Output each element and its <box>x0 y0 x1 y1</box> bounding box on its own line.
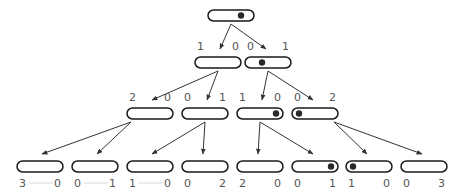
left-count-label: 0 <box>294 91 301 104</box>
right-count-label: 0 <box>54 177 61 190</box>
capsule-shape <box>237 161 283 172</box>
capsule-node <box>182 108 228 119</box>
edge-arrow <box>258 122 260 154</box>
marble-dot <box>328 163 334 169</box>
left-count-label: 0 <box>184 177 191 190</box>
edge-arrow <box>334 122 367 154</box>
capsule-node <box>182 161 228 172</box>
capsule-node <box>17 161 63 172</box>
capsule-node <box>72 161 118 172</box>
marble-dot <box>259 59 265 65</box>
edge-arrow <box>97 122 131 154</box>
left-count-label: 0 <box>184 91 191 104</box>
capsule-node <box>346 161 392 172</box>
capsule-shape <box>401 161 447 172</box>
left-count-label: 0 <box>247 40 254 53</box>
right-count-label: 1 <box>219 91 226 104</box>
capsule-shape <box>127 108 173 119</box>
capsule-node <box>127 108 173 119</box>
edge-arrow <box>262 71 268 100</box>
left-count-label: 2 <box>129 91 136 104</box>
right-count-label: 2 <box>329 91 336 104</box>
right-count-label: 0 <box>274 91 281 104</box>
edge-arrow <box>152 122 205 154</box>
marble-dot <box>238 12 244 18</box>
left-count-label: 2 <box>239 177 246 190</box>
capsule-shape <box>182 108 228 119</box>
edge-arrow <box>42 122 131 154</box>
left-count-label: 1 <box>197 40 204 53</box>
capsule-node <box>127 161 173 172</box>
right-count-label: 1 <box>329 177 336 190</box>
capsule-node <box>237 108 283 119</box>
right-count-label: 0 <box>274 177 281 190</box>
left-count-label: 1 <box>239 91 246 104</box>
capsule-node <box>401 161 447 172</box>
edge-arrow <box>334 122 422 154</box>
capsule-node <box>292 108 338 119</box>
right-count-label: 3 <box>438 177 445 190</box>
right-count-label: 0 <box>383 177 390 190</box>
nodes <box>17 10 447 172</box>
tree-diagram: 1001200110023001100220011003 <box>0 0 463 196</box>
capsule-node <box>237 161 283 172</box>
right-count-label: 0 <box>164 177 171 190</box>
right-count-label: 1 <box>109 177 116 190</box>
capsule-shape <box>195 57 241 68</box>
capsule-node <box>208 10 254 21</box>
capsule-shape <box>182 161 228 172</box>
left-count-label: 0 <box>294 177 301 190</box>
edge-arrow <box>260 122 313 154</box>
capsule-node <box>195 57 241 68</box>
capsule-shape <box>72 161 118 172</box>
capsule-shape <box>245 57 291 68</box>
left-count-label: 3 <box>19 177 26 190</box>
right-count-label: 1 <box>282 40 289 53</box>
marble-dot <box>296 110 302 116</box>
left-count-label: 1 <box>129 177 136 190</box>
right-count-label: 0 <box>232 40 239 53</box>
capsule-node <box>292 161 338 172</box>
left-count-label: 0 <box>403 177 410 190</box>
edge-arrow <box>220 24 231 49</box>
right-count-label: 0 <box>164 91 171 104</box>
left-count-label: 1 <box>348 177 355 190</box>
capsule-node <box>245 57 291 68</box>
capsule-shape <box>208 10 254 21</box>
marble-dot <box>273 110 279 116</box>
right-count-label: 2 <box>219 177 226 190</box>
marble-dot <box>350 163 356 169</box>
capsule-shape <box>127 161 173 172</box>
left-count-label: 0 <box>74 177 81 190</box>
edge-arrow <box>203 122 205 154</box>
capsule-shape <box>17 161 63 172</box>
